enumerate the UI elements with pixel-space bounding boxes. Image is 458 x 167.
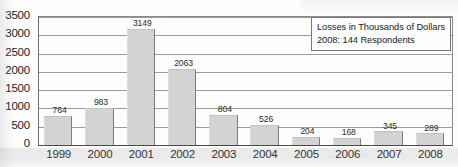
y-axis-tick-label: 1000 (5, 102, 30, 114)
y-axis-tick-label: 500 (11, 120, 30, 132)
x-axis-tick-label: 2002 (170, 148, 195, 160)
x-axis-tick-label: 2000 (88, 148, 113, 160)
bar-value-label: 983 (94, 98, 108, 107)
y-axis-tick-label: 1500 (5, 83, 30, 95)
y-axis-tick-label: 0 (24, 138, 30, 150)
bar (416, 133, 444, 145)
bar-value-label: 204 (300, 127, 314, 136)
bar-value-label: 764 (53, 106, 67, 115)
x-axis-tick-label: 2001 (129, 148, 154, 160)
bar (127, 29, 155, 145)
x-axis-baseline (38, 145, 454, 146)
x-axis-tick-label: 2005 (294, 148, 319, 160)
legend-line-losses: Losses in Thousands of Dollars (317, 21, 446, 34)
bar (168, 69, 196, 145)
x-axis-tick-label: 2008 (418, 148, 443, 160)
legend-box: Losses in Thousands of Dollars 2008: 144… (311, 17, 451, 51)
bar-chart-figure: 0500100015002000250030003500 76498331492… (0, 0, 458, 167)
bar-value-label: 804 (218, 105, 232, 114)
x-axis-tick-label: 2007 (377, 148, 402, 160)
x-axis-tick-label: 2004 (253, 148, 278, 160)
y-axis-tick-label: 2000 (5, 65, 30, 77)
bar-value-label: 3149 (133, 19, 152, 28)
bar (292, 137, 320, 145)
y-axis: 0500100015002000250030003500 (0, 0, 34, 146)
bar (209, 115, 237, 145)
y-axis-tick-label: 3500 (5, 10, 30, 22)
bar-slot: 983 (80, 17, 121, 145)
x-axis-tick-label: 1999 (46, 148, 71, 160)
bar-slot: 2063 (163, 17, 204, 145)
bar (85, 108, 113, 145)
y-axis-tick-label: 3000 (5, 29, 30, 41)
bar-value-label: 289 (424, 124, 438, 133)
bar (250, 125, 278, 145)
bar-slot: 804 (204, 17, 245, 145)
bar-value-label: 345 (383, 122, 397, 131)
legend-line-respondents: 2008: 144 Respondents (317, 34, 446, 47)
y-axis-tick-label: 2500 (5, 47, 30, 59)
bar-slot: 764 (39, 17, 80, 145)
bar-slot: 526 (246, 17, 287, 145)
scan-artifact-top (300, 0, 458, 14)
bar (374, 131, 402, 145)
bar-value-label: 2063 (174, 59, 193, 68)
bar-slot: 3149 (122, 17, 163, 145)
x-axis: 1999200020012002200320042005200620072008 (38, 148, 451, 164)
x-axis-tick-label: 2003 (211, 148, 236, 160)
bar-value-label: 526 (259, 115, 273, 124)
x-axis-tick-label: 2006 (335, 148, 360, 160)
bar (44, 116, 72, 145)
bar-value-label: 168 (342, 128, 356, 137)
